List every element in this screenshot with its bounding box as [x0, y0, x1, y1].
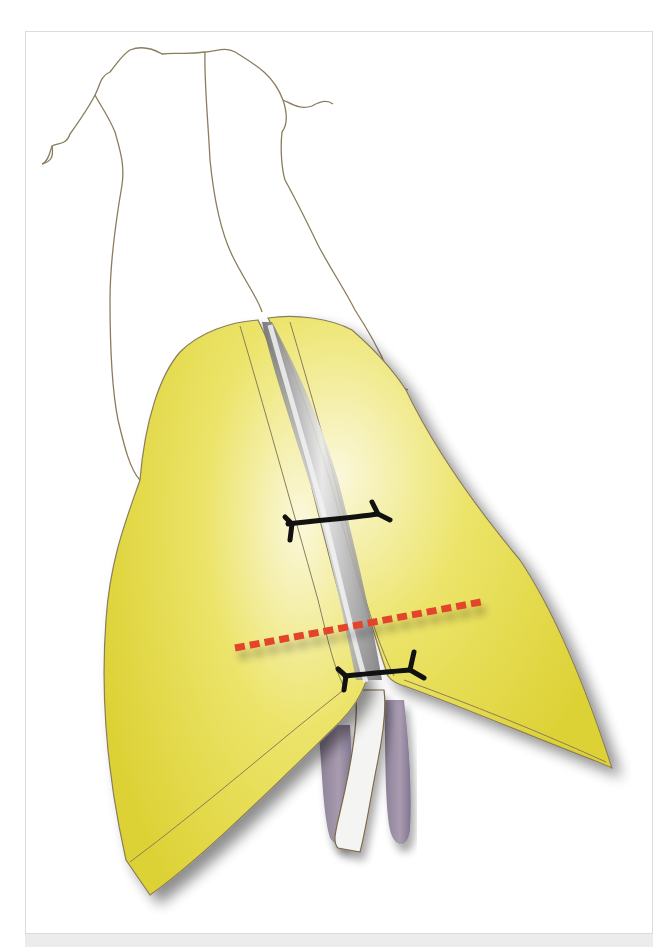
right-tissue-lobe [384, 700, 411, 844]
surgical-illustration [0, 0, 671, 947]
